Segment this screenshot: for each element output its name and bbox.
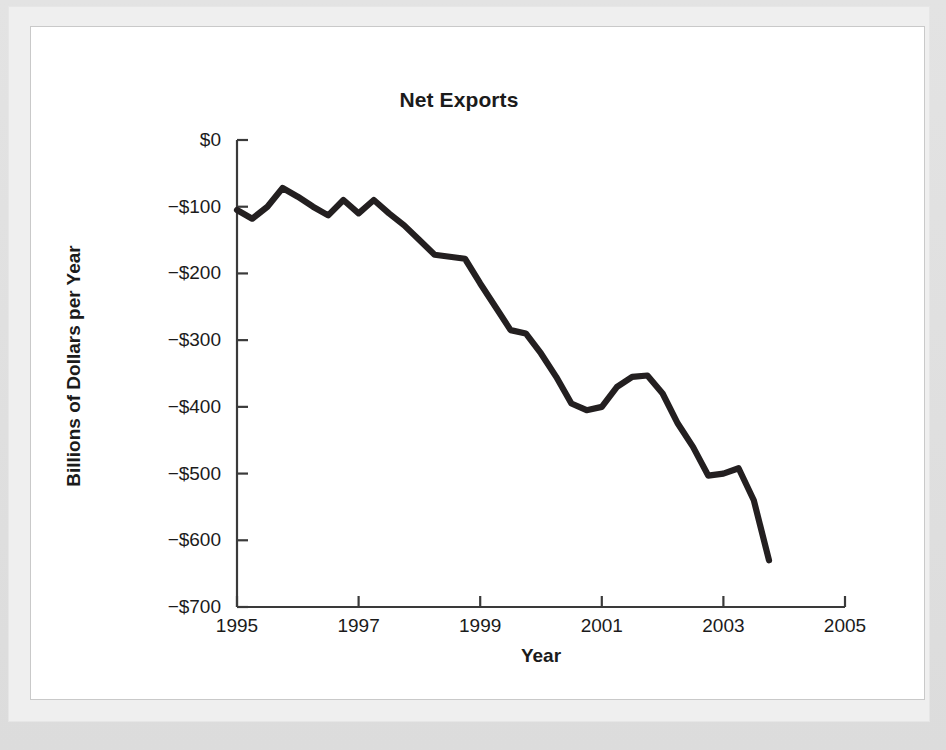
axis-lines — [237, 140, 845, 607]
scanned-page: Net Exports Billions of Dollars per Year… — [0, 0, 946, 750]
x-tick-marks — [237, 596, 845, 607]
net-exports-line-chart: Net Exports Billions of Dollars per Year… — [0, 0, 946, 750]
plot-canvas — [0, 0, 946, 750]
net-exports-data-line — [237, 188, 769, 560]
